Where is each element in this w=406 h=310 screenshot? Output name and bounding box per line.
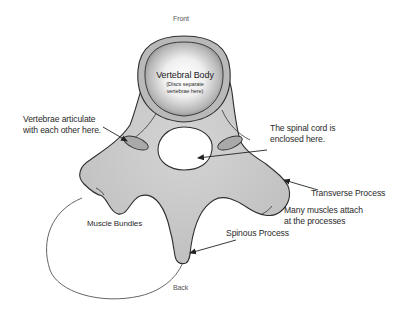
arrow-spinous-process [190, 240, 236, 253]
orientation-back-label: Back [173, 282, 188, 293]
muscles-attach-label-line2: at the processes [284, 216, 345, 227]
articulate-label-line2: with each other here. [23, 125, 101, 136]
muscle-bundle-outline [47, 198, 183, 299]
muscle-bundles-label: Muscle Bundles [87, 218, 142, 229]
spinal-cord-label-line2: enclosed here. [270, 134, 325, 145]
muscles-attach-label-line1: Many muscles attach [284, 205, 363, 216]
vertebral-body-note-line1: (Discs separate [150, 81, 220, 88]
spinous-process-label: Spinous Process [226, 228, 289, 239]
transverse-process-label: Transverse Process [311, 188, 385, 199]
orientation-front-label: Front [173, 13, 189, 24]
spinal-cord-label-line1: The spinal cord is [270, 123, 336, 134]
vertebral-body-label: Vertebral Body [150, 70, 220, 81]
vertebral-foramen [158, 127, 212, 170]
vertebra-diagram [0, 0, 406, 310]
vertebral-body-note-line2: vertebrae here) [150, 88, 220, 95]
articulate-label-line1: Vertebrae articulate [23, 114, 96, 125]
